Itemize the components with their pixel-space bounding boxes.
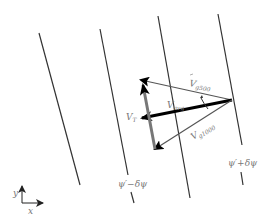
contour-label-plus: ψ′+δψ [228, 158, 258, 168]
contour-line-4a [218, 14, 242, 145]
contour-line-2a [100, 29, 128, 175]
vector-vg500 [141, 80, 232, 100]
contour-line-2b [131, 192, 134, 203]
vt-label: VT [126, 112, 138, 123]
contour-label-minus: ψ′−δψ [118, 179, 148, 189]
contour-line-4b [241, 172, 243, 185]
geostrophic-wind-diagram: ψ′−δψ ψ′+δψ Vg500 Vavg Vg1000 VT y x [0, 0, 268, 220]
vavg-label: Vavg [167, 100, 184, 112]
y-axis-label: y [12, 188, 19, 198]
contour-line-1 [39, 33, 80, 185]
x-axis-label: x [28, 206, 33, 216]
vg1000-label: Vg1000 [189, 120, 217, 143]
